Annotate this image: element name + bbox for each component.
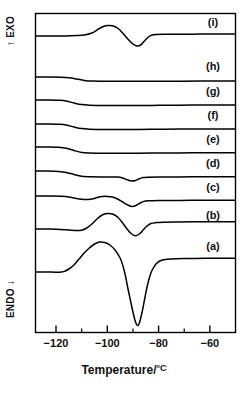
- x-tick-label: −100: [87, 337, 127, 349]
- dsc-curve-a: [36, 242, 236, 326]
- dsc-curve-g: [36, 100, 236, 106]
- endo-axis-label: ENDO ↓: [5, 280, 16, 318]
- curve-label-d: (d): [196, 157, 230, 169]
- dsc-curve-h: [36, 77, 236, 81]
- dsc-thermogram-figure: ↑ EXO ENDO ↓ Temperature/°C −120−100−80−…: [0, 0, 248, 395]
- endo-text: ENDO: [5, 288, 16, 318]
- x-axis-unit: °C: [157, 363, 167, 373]
- x-axis-title-text: Temperature/: [81, 363, 156, 377]
- dsc-curve-d: [36, 171, 236, 181]
- dsc-curve-f: [36, 124, 236, 130]
- exo-text: EXO: [5, 16, 16, 38]
- curve-label-g: (g): [196, 85, 230, 97]
- x-axis-title: Temperature/°C: [0, 363, 248, 377]
- curve-label-c: (c): [196, 181, 230, 193]
- dsc-curve-c: [36, 196, 236, 207]
- x-tick-label: −80: [139, 337, 179, 349]
- dsc-curve-i: [36, 25, 236, 46]
- curve-label-b: (b): [196, 209, 230, 221]
- x-tick-label: −120: [36, 337, 76, 349]
- exo-axis-label: ↑ EXO: [5, 16, 16, 46]
- curve-label-a: (a): [196, 240, 230, 252]
- curve-label-e: (e): [196, 133, 230, 145]
- curve-label-i: (i): [196, 16, 230, 28]
- x-tick-label: −60: [190, 337, 230, 349]
- dsc-curve-e: [36, 147, 236, 153]
- curve-label-f: (f): [196, 109, 230, 121]
- down-arrow-icon: ↓: [5, 280, 16, 285]
- x-axis-ticks: [56, 326, 210, 333]
- up-arrow-icon: ↑: [5, 41, 16, 46]
- curve-label-h: (h): [196, 60, 230, 72]
